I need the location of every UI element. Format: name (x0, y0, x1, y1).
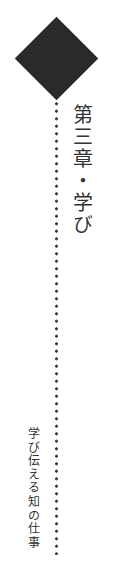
dotted-divider (55, 100, 58, 555)
diamond-ornament-icon (15, 17, 98, 100)
chapter-subtitle: 学び伝える知の仕事 (24, 427, 40, 549)
chapter-title: 第三章・学び (70, 104, 92, 236)
